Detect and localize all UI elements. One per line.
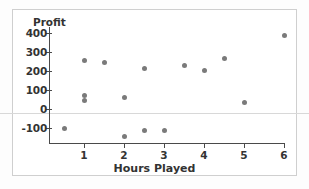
- data-point: [142, 128, 147, 133]
- y-axis-line: [49, 27, 50, 143]
- y-tick-label: -100: [7, 122, 47, 134]
- data-point: [242, 100, 247, 105]
- scatter-plot-figure: Profit Hours Played 400 300 200 100 0 -1…: [0, 0, 309, 189]
- data-point: [122, 134, 127, 139]
- data-point: [222, 56, 227, 61]
- data-point: [162, 128, 167, 133]
- x-tick-label: 5: [234, 149, 254, 161]
- y-tick-label: 200: [7, 65, 47, 77]
- x-tick-label: 6: [274, 149, 294, 161]
- data-point: [122, 95, 127, 100]
- data-point: [102, 60, 107, 65]
- x-tick-label: 4: [194, 149, 214, 161]
- y-tick-label: 100: [7, 84, 47, 96]
- x-tick-label: 3: [154, 149, 174, 161]
- y-tick-label: 400: [7, 27, 47, 39]
- data-point: [82, 98, 87, 103]
- x-tick-label: 2: [114, 149, 134, 161]
- x-axis-title: Hours Played: [0, 162, 309, 175]
- data-point: [142, 66, 147, 71]
- data-point: [282, 33, 287, 38]
- x-tick-label: 1: [74, 149, 94, 161]
- data-point: [202, 68, 207, 73]
- y-tick-label: 300: [7, 46, 47, 58]
- data-point: [62, 126, 67, 131]
- data-point: [82, 58, 87, 63]
- plot-area: Profit Hours Played 400 300 200 100 0 -1…: [0, 0, 309, 189]
- y-tick-label: 0: [7, 103, 47, 115]
- data-point: [182, 63, 187, 68]
